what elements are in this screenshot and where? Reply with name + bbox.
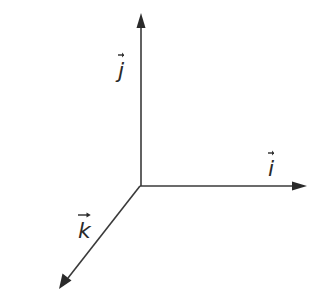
i-label-text: i bbox=[268, 158, 274, 180]
j-axis-arrowhead-icon bbox=[137, 13, 146, 28]
vector-arrow-icon bbox=[78, 211, 91, 219]
vector-arrow-icon bbox=[268, 149, 274, 157]
j-label-text: j bbox=[118, 60, 124, 82]
k-label-text: k bbox=[78, 220, 91, 242]
i-vector-label: i bbox=[268, 158, 274, 180]
i-axis-arrowhead-icon bbox=[292, 182, 307, 191]
k-vector-label: k bbox=[78, 220, 91, 242]
unit-vectors-diagram: j i k bbox=[0, 0, 323, 304]
vector-arrow-icon bbox=[118, 51, 124, 59]
axes-drawing bbox=[0, 0, 323, 304]
j-vector-label: j bbox=[118, 60, 124, 82]
